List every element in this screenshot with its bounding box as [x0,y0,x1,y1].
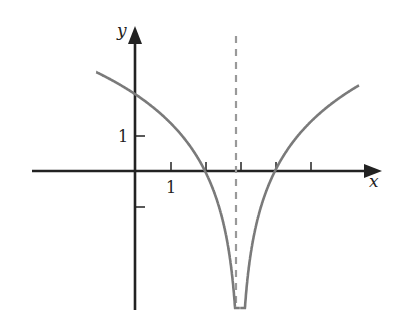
y-axis-arrow-icon [128,26,142,44]
x-tick-label-1: 1 [166,178,176,197]
y-axis-label: y [116,20,127,40]
y-tick-label-1: 1 [118,127,128,146]
x-ticks [171,162,311,171]
curve-right-branch [240,85,359,308]
x-axis-label: x [369,171,379,191]
graph-figure: y = ... ( ... ) 1 1 x y [0,0,398,330]
cropped-title-fragment: y = ... ( ... ) [107,0,193,1]
graph-canvas: y = ... ( ... ) 1 1 x y [0,0,398,330]
